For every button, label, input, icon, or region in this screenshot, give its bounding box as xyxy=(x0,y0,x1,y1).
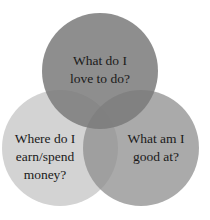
label-love-1: What do I xyxy=(73,53,127,68)
venn-diagram: What do I love to do? Where do I earn/sp… xyxy=(0,0,210,220)
label-money-3: money? xyxy=(24,167,67,182)
label-good-1: What am I xyxy=(128,131,185,146)
label-money-1: Where do I xyxy=(15,131,76,146)
label-good-2: good at? xyxy=(133,149,179,164)
label-love-2: love to do? xyxy=(70,71,130,86)
label-money-2: earn/spend xyxy=(16,149,75,164)
